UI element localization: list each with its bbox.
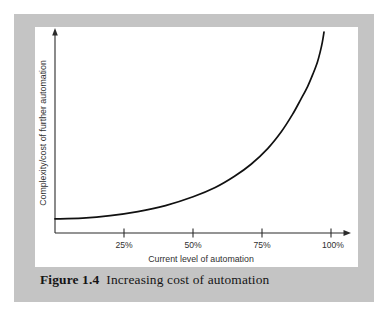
chart-plot: 25% 50% 75% 100% Current level of automa… — [35, 27, 358, 267]
y-axis-title: Complexity/cost of further automation — [38, 60, 48, 206]
x-axis-arrow-icon — [344, 230, 352, 236]
y-axis-arrow-icon — [52, 28, 58, 36]
x-tick-label-50: 50% — [184, 240, 202, 250]
cost-curve — [55, 32, 324, 219]
figure-caption: Figure 1.4 Increasing cost of automation — [40, 272, 370, 288]
x-tick-label-25: 25% — [115, 240, 133, 250]
x-tick-label-100: 100% — [322, 240, 344, 250]
x-tick-label-75: 75% — [253, 240, 271, 250]
x-axis-title: Current level of automation — [148, 254, 254, 264]
figure-panel: 25% 50% 75% 100% Current level of automa… — [14, 14, 374, 302]
plot-card: 25% 50% 75% 100% Current level of automa… — [35, 27, 358, 267]
figure-caption-number: Figure 1.4 — [40, 272, 99, 287]
figure-screenshot: 25% 50% 75% 100% Current level of automa… — [0, 0, 388, 316]
figure-caption-text: Increasing cost of automation — [106, 272, 269, 287]
